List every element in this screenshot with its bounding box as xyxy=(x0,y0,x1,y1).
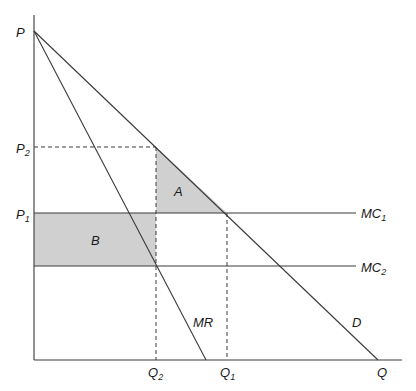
p1-label: P1 xyxy=(16,207,30,224)
area-a-label: A xyxy=(173,184,183,199)
mc1-label: MC1 xyxy=(361,206,386,223)
area-b-label: B xyxy=(91,233,100,248)
q1-label: Q1 xyxy=(220,365,235,382)
monopoly-diagram: P P2 P1 A B MC1 MC2 MR D Q2 Q1 Q xyxy=(0,0,416,391)
mc2-label: MC2 xyxy=(361,260,386,277)
q2-label: Q2 xyxy=(148,365,163,382)
x-axis-label: Q xyxy=(377,365,387,380)
area-a xyxy=(156,147,227,213)
p2-label: P2 xyxy=(16,141,30,158)
demand-label: D xyxy=(352,315,361,330)
mr-label: MR xyxy=(193,315,213,330)
demand-curve xyxy=(34,31,378,360)
y-axis-label: P xyxy=(16,25,25,40)
